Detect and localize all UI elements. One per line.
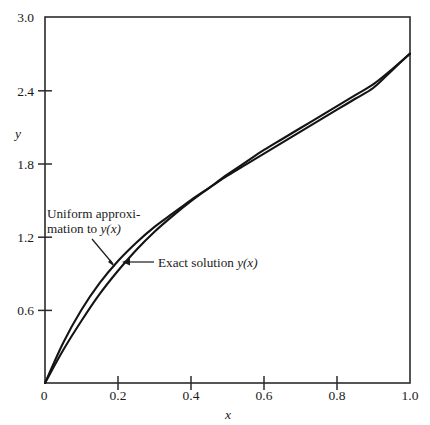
y-tick-label-3-0: 3.0	[17, 10, 34, 25]
exact-annotation-math: y(x)	[235, 255, 258, 270]
chart-figure: 3.0 2.4 1.8 1.2 0.6 0 0.2 0.4 0.6 0.8 1.…	[0, 0, 430, 425]
y-tick-label-2-4: 2.4	[17, 84, 34, 99]
x-tick-label-0-8: 0.8	[329, 388, 346, 403]
uniform-annotation-line1: Uniform approxi-	[47, 206, 140, 221]
uniform-annotation-line2-prefix: mation to	[47, 221, 100, 236]
x-tick-label-0-4: 0.4	[183, 388, 200, 403]
y-tick-label-1-8: 1.8	[17, 157, 34, 172]
x-tick-label-0: 0	[41, 388, 48, 403]
exact-annotation-text: Exact solution y(x)	[158, 255, 258, 270]
uniform-annotation-line2: mation to y(x)	[47, 221, 121, 236]
y-tick-label-0-6: 0.6	[17, 303, 34, 318]
x-tick-label-0-2: 0.2	[110, 388, 127, 403]
x-tick-label-0-6: 0.6	[256, 388, 273, 403]
y-axis-label: y	[13, 126, 21, 141]
line-chart-svg: 3.0 2.4 1.8 1.2 0.6 0 0.2 0.4 0.6 0.8 1.…	[0, 0, 430, 425]
x-axis-label: x	[224, 407, 231, 422]
x-tick-label-1-0: 1.0	[402, 388, 419, 403]
exact-annotation-prefix: Exact solution	[158, 255, 237, 270]
y-tick-label-1-2: 1.2	[17, 230, 34, 245]
uniform-annotation-line2-math: y(x)	[98, 221, 121, 236]
